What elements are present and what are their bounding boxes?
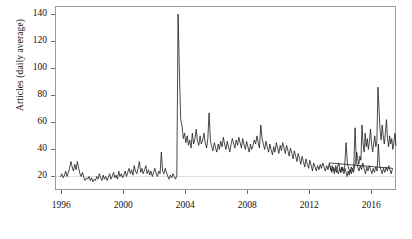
series-line-articles — [61, 14, 396, 182]
y-tick-label-20: 20 — [23, 171, 47, 181]
series-canvas — [55, 6, 396, 190]
y-tick-label-100: 100 — [23, 63, 47, 73]
plot-area — [55, 6, 396, 190]
x-tick-label-2004: 2004 — [165, 201, 205, 211]
y-tick-label-60: 60 — [23, 117, 47, 127]
x-tick-label-1996: 1996 — [41, 201, 81, 211]
x-tick-label-2012: 2012 — [289, 201, 329, 211]
x-tick-mark-2012 — [309, 190, 310, 194]
y-tick-label-140: 140 — [23, 9, 47, 19]
x-tick-label-2000: 2000 — [103, 201, 143, 211]
y-tick-label-120: 120 — [23, 36, 47, 46]
x-tick-mark-2004 — [185, 190, 186, 194]
x-tick-mark-2000 — [123, 190, 124, 194]
y-tick-label-40: 40 — [23, 144, 47, 154]
y-tick-label-80: 80 — [23, 90, 47, 100]
x-tick-label-2008: 2008 — [227, 201, 267, 211]
x-tick-mark-2016 — [371, 190, 372, 194]
x-tick-mark-2008 — [247, 190, 248, 194]
figure: Articles (daily average) 204060801001201… — [0, 0, 412, 239]
x-tick-mark-1996 — [61, 190, 62, 194]
x-tick-label-2016: 2016 — [351, 201, 391, 211]
